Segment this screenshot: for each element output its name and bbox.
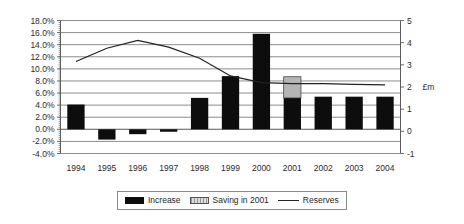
axis-right-tick-label-4: 1 — [407, 104, 412, 114]
x-axis-label-1994: 1994 — [66, 163, 85, 173]
legend-swatch-reserves-icon — [278, 197, 299, 204]
x-axis-label-2004: 2004 — [376, 163, 395, 173]
legend-label-saving: Saving in 2001 — [213, 196, 269, 205]
axis-left-tick-label-0: 18.0% — [30, 16, 55, 26]
x-axis-label-2002: 2002 — [314, 163, 333, 173]
legend-item-increase: Increase — [125, 196, 181, 205]
legend-label-increase: Increase — [148, 196, 181, 205]
axis-left-tick-label-7: 4.0% — [35, 100, 55, 110]
legend-swatch-saving-icon — [190, 197, 209, 204]
x-axis-label-1998: 1998 — [190, 163, 209, 173]
legend-swatch-increase-icon — [125, 197, 144, 204]
legend-label-reserves: Reserves — [303, 196, 339, 205]
axis-left-tick-label-11: -4.0% — [32, 149, 55, 159]
axis-right-tick-label-6: -1 — [407, 149, 415, 159]
axis-right-tick-label-5: 0 — [407, 126, 412, 136]
bar-increase-2004 — [376, 97, 393, 130]
axis-left-tick-label-1: 16.0% — [30, 28, 55, 38]
axis-left-tick-label-6: 6.0% — [35, 88, 55, 98]
bar-increase-2002 — [315, 97, 332, 130]
axis-left-tick-label-10: -2.0% — [32, 136, 55, 146]
chart-container: 18.0%16.0%14.0%12.0%10.0%8.0%6.0%4.0%2.0… — [0, 0, 464, 224]
axis-left-tick-label-5: 8.0% — [35, 76, 55, 86]
axis-left-tick-label-8: 2.0% — [35, 112, 55, 122]
bar-increase-2003 — [345, 97, 362, 130]
bar-increase-1996 — [129, 129, 146, 134]
x-axis-label-2001: 2001 — [283, 163, 302, 173]
axis-left-tick-label-2: 14.0% — [30, 40, 55, 50]
axis-left-tick-label-3: 12.0% — [30, 52, 55, 62]
axis-left-tick-label-4: 10.0% — [30, 64, 55, 74]
bar-increase-1997 — [160, 129, 177, 131]
bar-increase-1998 — [191, 98, 208, 129]
axis-left-tick-label-9: 0.0% — [35, 124, 55, 134]
bar-increase-1999 — [222, 76, 239, 129]
axis-right-tick-label-2: 3 — [407, 60, 412, 70]
legend-item-saving: Saving in 2001 — [190, 196, 269, 205]
bar-increase-2001 — [284, 98, 301, 129]
x-axis-label-1999: 1999 — [221, 163, 240, 173]
x-axis-label-2000: 2000 — [252, 163, 271, 173]
x-axis-label-1995: 1995 — [97, 163, 116, 173]
legend-item-reserves: Reserves — [278, 196, 339, 205]
x-axis-label-1997: 1997 — [159, 163, 178, 173]
axis-right-tick-label-3: 2 — [407, 82, 412, 92]
axis-right-unit-label: £m — [423, 82, 435, 92]
chart-legend: Increase Saving in 2001 Reserves — [117, 191, 347, 210]
axis-right-tick-label-0: 5 — [407, 16, 412, 26]
axis-right-tick-label-1: 4 — [407, 38, 412, 48]
x-axis-label-2003: 2003 — [345, 163, 364, 173]
bar-saving-2001 — [284, 77, 301, 98]
bar-increase-1995 — [98, 129, 115, 139]
x-axis-label-1996: 1996 — [128, 163, 147, 173]
bar-increase-1994 — [67, 105, 84, 130]
